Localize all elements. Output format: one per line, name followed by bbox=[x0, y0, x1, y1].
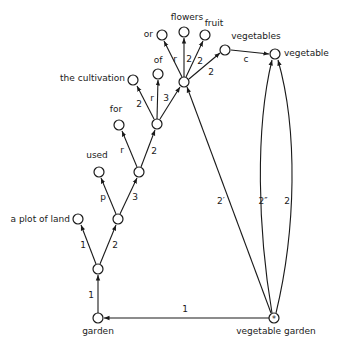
edge-label-hub-fruit: 2 bbox=[197, 56, 203, 66]
node-n2 bbox=[113, 214, 123, 224]
node-fruit bbox=[200, 30, 210, 40]
root-marker-icon: * bbox=[272, 315, 276, 324]
node-used bbox=[94, 167, 104, 177]
node-vegetables bbox=[220, 45, 230, 55]
edge-label-n4-of: r bbox=[150, 93, 154, 103]
edge-vg-vegetable-outer bbox=[276, 60, 292, 313]
label-flowers: flowers bbox=[171, 12, 204, 22]
edge-vegetables-vegetable bbox=[231, 50, 269, 54]
edge-label-vg-vegetable-outer: 2 bbox=[284, 196, 290, 206]
semantic-network-diagram: * garden a plot of land used for the cul… bbox=[0, 0, 343, 347]
node-n4 bbox=[152, 119, 162, 129]
edge-label-n3-n4: 2 bbox=[151, 146, 157, 156]
label-fruit: fruit bbox=[205, 18, 224, 28]
edge-label-n4-cultivation: 2 bbox=[136, 99, 142, 109]
label-plot-of-land: a plot of land bbox=[11, 214, 70, 224]
edge-label-n1-n2: 2 bbox=[112, 240, 118, 250]
label-vegetable-garden: vegetable garden bbox=[236, 326, 316, 336]
label-vegetable: vegetable bbox=[284, 48, 329, 58]
edge-label-n1-plot: 1 bbox=[80, 240, 86, 250]
edge-label-vg-hub: 2′ bbox=[217, 196, 225, 206]
label-for: for bbox=[110, 104, 123, 114]
label-garden: garden bbox=[82, 326, 114, 336]
label-vegetables: vegetables bbox=[231, 31, 281, 41]
edge-n4-of bbox=[157, 80, 158, 119]
node-hub bbox=[179, 77, 189, 87]
node-or bbox=[157, 30, 167, 40]
edge-label-vg-vegetable-inner: 2″ bbox=[258, 196, 268, 206]
edge-label-hub-vegetables: 2 bbox=[208, 67, 214, 77]
node-plot-of-land bbox=[73, 214, 83, 224]
node-vegetable bbox=[270, 49, 280, 59]
node-flowers bbox=[179, 27, 189, 37]
edge-hub-vegetables bbox=[189, 53, 220, 79]
node-for bbox=[114, 120, 124, 130]
edge-label-n4-hub: 3 bbox=[163, 93, 169, 103]
node-garden bbox=[93, 313, 103, 323]
edge-vg-vegetable-inner bbox=[260, 60, 272, 313]
node-n1 bbox=[93, 264, 103, 274]
label-of: of bbox=[154, 55, 164, 65]
edge-label-vg-garden: 1 bbox=[182, 304, 188, 314]
label-or: or bbox=[144, 29, 154, 39]
label-the-cultivation: the cultivation bbox=[60, 73, 125, 83]
edge-label-vegetables-vegetable: c bbox=[244, 54, 249, 64]
edge-labels: 1 1 1 2 p 3 r 2 2 r 3 r 2 2 2 c 2′ 2″ 2 bbox=[80, 54, 290, 314]
edge-label-hub-flowers: 2 bbox=[186, 54, 192, 64]
node-the-cultivation bbox=[128, 75, 138, 85]
nodes: * bbox=[73, 27, 280, 324]
node-of bbox=[153, 69, 163, 79]
edge-n4-hub bbox=[160, 87, 180, 119]
edge-label-hub-or: r bbox=[173, 54, 177, 64]
edge-n3-for bbox=[122, 131, 137, 167]
label-used: used bbox=[86, 150, 108, 160]
edge-label-n2-used: p bbox=[100, 192, 106, 202]
node-n3 bbox=[134, 167, 144, 177]
edge-label-n3-for: r bbox=[120, 145, 124, 155]
edge-label-garden-n1: 1 bbox=[88, 290, 94, 300]
edge-label-n2-n3: 3 bbox=[132, 192, 138, 202]
